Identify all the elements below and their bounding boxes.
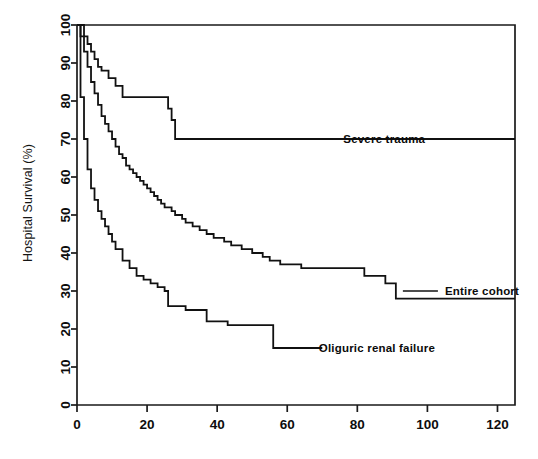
y-tick-label: 0 xyxy=(58,401,73,409)
y-tick-label: 50 xyxy=(58,207,73,222)
x-axis-ticks: 020406080100120 xyxy=(73,405,509,432)
annotation-label: Entire cohort xyxy=(445,285,519,297)
x-tick-label: 20 xyxy=(140,417,155,432)
x-tick-label: 0 xyxy=(73,417,81,432)
survival-curve-figure: Hospital Survival (%) 010203040506070809… xyxy=(0,0,538,459)
annotation-label: Oliguric renal failure xyxy=(319,342,435,354)
y-tick-label: 70 xyxy=(58,131,73,146)
x-tick-label: 120 xyxy=(486,417,509,432)
survival-curve-entire-cohort xyxy=(77,25,515,299)
y-tick-label: 80 xyxy=(58,93,73,108)
y-axis-ticks: 0102030405060708090100 xyxy=(58,14,78,409)
survival-curve-oliguric-renal-failure xyxy=(77,25,322,348)
y-tick-label: 10 xyxy=(58,359,73,374)
survival-curve-severe-trauma xyxy=(77,25,515,139)
survival-curves xyxy=(77,25,515,348)
x-tick-label: 40 xyxy=(210,417,225,432)
x-tick-label: 60 xyxy=(280,417,295,432)
y-tick-label: 90 xyxy=(58,55,73,70)
curve-annotations: Severe traumaEntire cohortOliguric renal… xyxy=(259,133,519,354)
y-tick-label: 40 xyxy=(58,245,73,260)
y-tick-label: 100 xyxy=(58,14,73,37)
y-tick-label: 20 xyxy=(58,321,73,336)
y-tick-label: 60 xyxy=(58,169,73,184)
annotation-label: Severe trauma xyxy=(343,133,425,145)
x-tick-label: 100 xyxy=(416,417,439,432)
x-tick-label: 80 xyxy=(350,417,365,432)
plot-area: 0102030405060708090100 020406080100120 S… xyxy=(0,0,538,459)
y-tick-label: 30 xyxy=(58,283,73,298)
